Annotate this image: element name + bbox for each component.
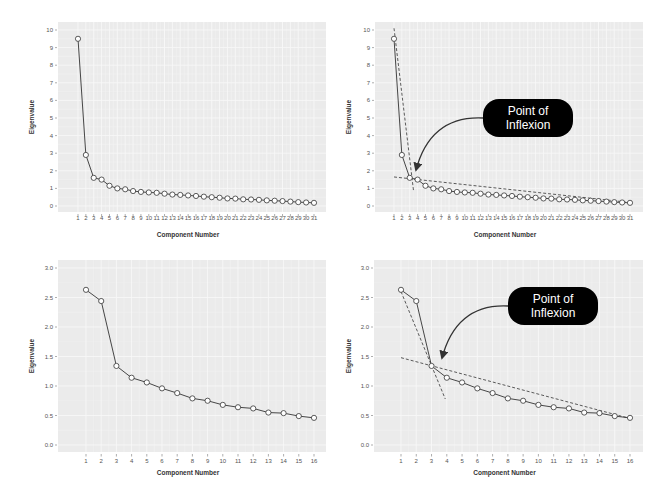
x-tick-label: 19: [532, 215, 539, 221]
x-tick-label: 7: [124, 215, 128, 221]
x-axis: 1234567891011121314151617181920212223242…: [392, 214, 634, 221]
data-point-marker: [83, 152, 88, 157]
data-point-marker: [296, 200, 301, 205]
data-point-marker: [415, 177, 420, 182]
y-tick-label: 10: [46, 27, 53, 33]
x-tick-label: 2: [400, 215, 404, 221]
x-tick-label: 14: [596, 458, 603, 464]
data-point-marker: [251, 406, 256, 411]
x-tick-label: 6: [160, 458, 164, 464]
x-tick-label: 4: [445, 458, 449, 464]
data-point-marker: [281, 411, 286, 416]
x-tick-label: 29: [611, 215, 618, 221]
x-tick-label: 9: [206, 458, 210, 464]
data-point-marker: [431, 186, 436, 191]
data-point-marker: [266, 410, 271, 415]
callout-text-line1: Point of: [508, 104, 549, 118]
y-tick-label: 5: [367, 115, 371, 121]
data-point-marker: [235, 405, 240, 410]
data-point-marker: [572, 197, 577, 202]
x-tick-label: 28: [287, 215, 294, 221]
x-tick-label: 11: [235, 458, 242, 464]
x-tick-label: 13: [581, 458, 588, 464]
x-tick-label: 28: [603, 215, 610, 221]
chart-panel-bottom-right: 0.00.51.01.52.02.53.01234567891011121314…: [345, 260, 643, 477]
x-tick-label: 30: [303, 215, 310, 221]
x-tick-label: 4: [130, 458, 134, 464]
x-axis: 12345678910111213141516: [399, 454, 634, 464]
x-tick-label: 25: [263, 215, 270, 221]
data-point-marker: [83, 287, 88, 292]
data-point-marker: [596, 198, 601, 203]
x-tick-label: 12: [250, 458, 257, 464]
data-point-marker: [256, 197, 261, 202]
data-point-marker: [186, 193, 191, 198]
x-tick-label: 8: [131, 215, 135, 221]
data-point-marker: [233, 196, 238, 201]
data-point-marker: [429, 363, 434, 368]
data-point-marker: [209, 195, 214, 200]
data-point-marker: [178, 192, 183, 197]
x-tick-label: 5: [108, 215, 112, 221]
data-point-marker: [154, 190, 159, 195]
x-tick-label: 5: [145, 458, 149, 464]
callout-text-line1: Point of: [533, 292, 574, 306]
x-tick-label: 21: [548, 215, 555, 221]
x-tick-label: 13: [169, 215, 176, 221]
x-tick-label: 16: [193, 215, 200, 221]
x-tick-label: 7: [440, 215, 444, 221]
x-tick-label: 26: [271, 215, 278, 221]
data-point-marker: [225, 196, 230, 201]
y-axis-title: Eigenvalue: [28, 338, 36, 373]
y-tick-label: 6: [367, 97, 371, 103]
x-tick-label: 31: [311, 215, 318, 221]
data-point-marker: [612, 200, 617, 205]
x-tick-label: 27: [279, 215, 286, 221]
y-tick-label: 6: [50, 97, 54, 103]
x-tick-label: 13: [485, 215, 492, 221]
y-axis: 012345678910: [46, 27, 57, 209]
x-tick-label: 9: [139, 215, 143, 221]
x-axis-title: Component Number: [157, 469, 220, 477]
data-point-marker: [478, 191, 483, 196]
data-point-marker: [159, 386, 164, 391]
x-tick-label: 15: [295, 458, 302, 464]
x-tick-label: 15: [501, 215, 508, 221]
data-point-marker: [475, 386, 480, 391]
y-tick-label: 0: [50, 203, 54, 209]
data-point-marker: [144, 380, 149, 385]
y-axis-title: Eigenvalue: [345, 338, 353, 373]
y-tick-label: 1: [50, 185, 54, 191]
y-tick-label: 4: [50, 133, 54, 139]
y-tick-label: 2.0: [45, 324, 54, 330]
data-point-marker: [597, 411, 602, 416]
data-point-marker: [130, 188, 135, 193]
x-tick-label: 20: [224, 215, 231, 221]
data-point-marker: [288, 199, 293, 204]
data-point-marker: [564, 197, 569, 202]
data-point-marker: [398, 287, 403, 292]
data-point-marker: [280, 198, 285, 203]
y-axis-title: Eigenvalue: [345, 99, 353, 134]
x-tick-label: 1: [399, 458, 403, 464]
data-point-marker: [201, 194, 206, 199]
x-tick-label: 13: [265, 458, 272, 464]
y-tick-label: 2: [367, 168, 371, 174]
y-tick-label: 0: [367, 203, 371, 209]
callout-text-line2: Inflexion: [506, 118, 551, 132]
y-tick-label: 2.0: [361, 324, 370, 330]
x-tick-label: 7: [176, 458, 180, 464]
data-point-marker: [99, 298, 104, 303]
data-point-marker: [446, 188, 451, 193]
x-tick-label: 1: [76, 215, 80, 221]
data-point-marker: [115, 186, 120, 191]
x-tick-label: 3: [92, 215, 96, 221]
x-tick-label: 12: [161, 215, 168, 221]
x-tick-label: 10: [535, 458, 542, 464]
y-tick-label: 1.5: [361, 354, 370, 360]
x-tick-label: 9: [521, 458, 525, 464]
x-tick-label: 8: [191, 458, 195, 464]
y-tick-label: 9: [367, 45, 371, 51]
data-point-marker: [439, 187, 444, 192]
x-tick-label: 19: [216, 215, 223, 221]
